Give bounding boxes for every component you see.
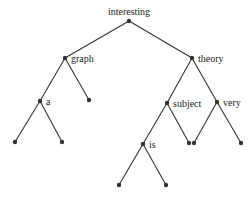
node-interesting — [127, 19, 131, 23]
binary-tree-diagram: interestinggraphtheoryasubjectveryis — [0, 0, 250, 200]
node-very-left-leaf — [192, 141, 196, 145]
edge-graph-graph-right-leaf — [65, 58, 89, 100]
node-a-right-leaf — [60, 140, 64, 144]
node-is-left-leaf — [117, 183, 121, 187]
edge-subject-subject-right-leaf — [167, 103, 189, 143]
edge-theory-very — [192, 58, 217, 102]
node-label-graph: graph — [71, 53, 94, 64]
edge-interesting-theory — [129, 21, 192, 58]
node-a — [38, 99, 42, 103]
edge-graph-a — [40, 58, 65, 101]
node-label-very: very — [223, 97, 241, 108]
node-is — [141, 142, 145, 146]
node-label-a: a — [46, 96, 51, 107]
node-graph-right-leaf — [87, 98, 91, 102]
node-theory — [190, 56, 194, 60]
node-label-is: is — [149, 139, 156, 150]
node-a-left-leaf — [13, 140, 17, 144]
edge-a-a-right-leaf — [40, 101, 62, 142]
node-label-interesting: interesting — [108, 6, 150, 17]
node-very-right-leaf — [239, 141, 243, 145]
node-label-theory: theory — [198, 53, 224, 64]
edge-is-is-right-leaf — [143, 144, 166, 185]
node-is-right-leaf — [164, 183, 168, 187]
edge-theory-subject — [167, 58, 192, 103]
edge-a-a-left-leaf — [15, 101, 40, 142]
node-graph — [63, 56, 67, 60]
node-label-subject: subject — [173, 98, 202, 109]
node-very — [215, 100, 219, 104]
node-subject-right-leaf — [187, 141, 191, 145]
edge-very-very-right-leaf — [217, 102, 241, 143]
edge-is-is-left-leaf — [119, 144, 143, 185]
node-subject — [165, 101, 169, 105]
tree-labels: interestinggraphtheoryasubjectveryis — [46, 6, 241, 150]
